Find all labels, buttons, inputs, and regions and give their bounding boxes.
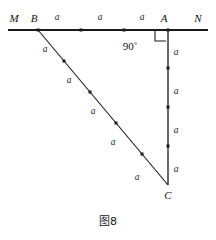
tick-dot [167, 145, 170, 148]
vertex-label-m: M [8, 12, 19, 24]
tick-dot [80, 29, 83, 32]
vertex-label-b: B [31, 12, 38, 24]
segment-length-label: a [174, 86, 179, 96]
segment-labels-ac: aaaa [174, 47, 179, 174]
segment-labels-bc: aaaaa [43, 44, 140, 182]
vertex-label-c: C [164, 189, 172, 201]
tick-dot [167, 106, 170, 109]
geometry-figure: aaa aaaa aaaaa MBANC 90˚ 图8 [0, 0, 216, 240]
segment-length-label: a [135, 172, 140, 182]
vertex-label-n: N [193, 12, 202, 24]
vertex-label-a: A [160, 12, 168, 24]
tick-dot [115, 122, 118, 125]
segment-length-label: a [140, 12, 145, 22]
tick-dot [63, 60, 66, 63]
segment-length-label: a [174, 47, 179, 57]
segment-length-label: a [67, 75, 72, 85]
angle-label-90: 90˚ [123, 40, 138, 52]
segment-length-label: a [91, 106, 96, 116]
segment-length-label: a [111, 137, 116, 147]
segment-length-label: a [98, 12, 103, 22]
figure-caption: 图8 [0, 212, 216, 228]
tick-dot [37, 29, 40, 32]
segment-bc [38, 30, 168, 185]
tick-dot [123, 29, 126, 32]
tick-dot [141, 153, 144, 156]
segment-length-label: a [174, 125, 179, 135]
geometry-canvas: aaa aaaa aaaaa MBANC 90˚ [0, 0, 216, 240]
segment-length-label: a [174, 164, 179, 174]
tick-dot [89, 91, 92, 94]
segment-length-label: a [55, 12, 60, 22]
segment-labels-mn: aaa [55, 12, 145, 22]
segment-length-label: a [43, 44, 48, 54]
tick-dot [167, 29, 170, 32]
tick-dot [167, 67, 170, 70]
right-angle-marker [155, 31, 166, 41]
